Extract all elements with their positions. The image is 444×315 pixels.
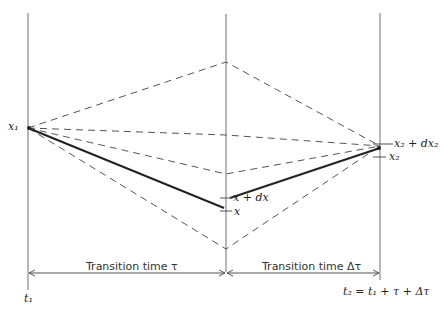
point-x1 [27,126,31,130]
label-x-dx: x + dx [233,192,269,203]
label-x2: x₂ [389,151,400,162]
label-x2-dx2: x₂ + dx₂ [394,138,438,149]
interval-label-tau: Transition time τ [86,261,178,272]
label-x: x [234,206,240,217]
interval-label-delta-tau: Transition time Δτ [262,261,361,272]
label-x1: x₁ [8,121,19,132]
label-t2: t₂ = t₁ + τ + Δτ [343,286,429,297]
dashed-paths [28,62,380,249]
diagram-canvas [0,0,444,315]
point-x2 [377,146,381,150]
label-t1: t₁ [24,293,33,304]
